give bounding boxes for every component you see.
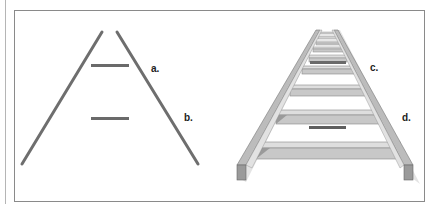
bar-a: [91, 64, 129, 67]
bar-b: [91, 117, 129, 120]
label-a: a.: [151, 63, 159, 74]
bar-d: [309, 126, 346, 129]
label-b: b.: [184, 112, 193, 123]
bar-c: [310, 61, 346, 64]
left-panel: [22, 32, 198, 164]
right-panel: [237, 30, 420, 184]
label-d: d.: [402, 112, 411, 123]
right-converging-line: [117, 32, 198, 164]
left-converging-line: [22, 32, 102, 164]
illusion-figure: [0, 0, 438, 204]
label-c: c.: [370, 62, 378, 73]
